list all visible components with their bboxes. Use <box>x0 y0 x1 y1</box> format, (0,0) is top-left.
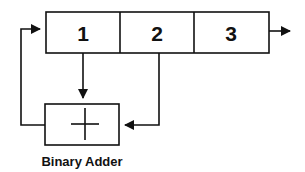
adder-caption: Binary Adder <box>41 154 122 169</box>
register-cell-2: 2 <box>151 22 163 45</box>
cell2-to-adder-arrow <box>125 53 159 125</box>
shift-register: 1 2 3 <box>46 12 269 53</box>
binary-adder: Binary Adder <box>41 104 122 169</box>
register-cell-1: 1 <box>77 22 89 45</box>
register-cell-3: 3 <box>225 22 237 45</box>
plus-icon <box>71 108 99 140</box>
feedback-arrow <box>21 29 45 125</box>
shift-register-diagram: 1 2 3 Binary Adder <box>0 0 305 172</box>
